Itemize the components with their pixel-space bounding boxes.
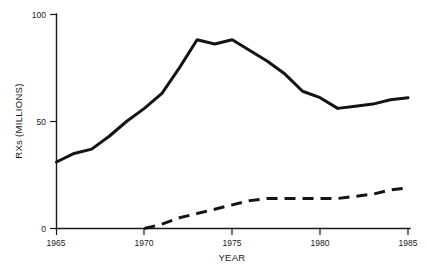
y-axis-title: RXs (MILLIONS) xyxy=(13,83,24,158)
y-tick-label-0: 0 xyxy=(41,224,46,234)
y-tick-label-50: 50 xyxy=(37,117,47,127)
series-dashed-line xyxy=(144,188,408,229)
line-chart: 100 50 0 1965 1970 1975 1980 1985 YEAR R… xyxy=(0,0,426,266)
chart-canvas: 100 50 0 1965 1970 1975 1980 1985 YEAR R… xyxy=(0,0,426,266)
x-tick-label-1985: 1985 xyxy=(399,238,418,248)
x-tick-label-1980: 1980 xyxy=(311,238,330,248)
x-tick-label-1965: 1965 xyxy=(47,238,66,248)
x-axis-title: YEAR xyxy=(218,252,245,263)
series-solid-line xyxy=(57,40,409,162)
y-tick-label-100: 100 xyxy=(32,10,46,20)
x-tick-label-1975: 1975 xyxy=(223,238,242,248)
x-tick-label-1970: 1970 xyxy=(135,238,154,248)
